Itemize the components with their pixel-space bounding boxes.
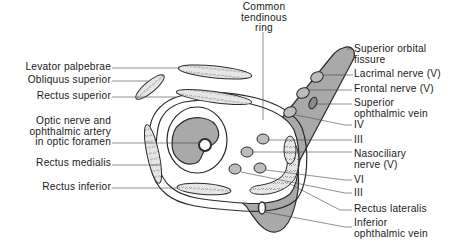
label-superior-orbital-fissure: Superior orbital fissure (354, 44, 426, 65)
levator-palpebrae-muscle (178, 62, 253, 82)
label-rectus-superior: Rectus superior (37, 91, 111, 102)
label-line: ring (237, 23, 291, 34)
label-nerve-iii-lower: III (354, 188, 363, 199)
label-line: VI (354, 175, 364, 186)
label-line: Obliquus superior (28, 75, 111, 86)
label-line: IV (354, 120, 364, 131)
label-line: Superior orbital (354, 44, 426, 55)
label-line: ophthalmic vein (354, 229, 428, 240)
label-nerve-iv: IV (354, 120, 364, 131)
label-line: III (354, 188, 363, 199)
label-nerve-iii-upper: III (354, 135, 363, 146)
label-line: Rectus lateralis (354, 204, 427, 215)
label-line: fissure (354, 55, 426, 66)
label-nasociliary-nerve: Nasociliary nerve (V) (354, 149, 406, 170)
label-inferior-ophthalmic-vein: Inferior ophthalmic vein (354, 218, 428, 239)
label-line: in optic foramen (29, 137, 111, 148)
label-superior-ophthalmic-vein: Superior ophthalmic vein (354, 98, 428, 119)
label-line: Common (237, 2, 291, 13)
inferior-ophthalmic-vein-shape (259, 202, 266, 214)
label-line: III (354, 135, 363, 146)
label-line: Inferior (354, 218, 428, 229)
label-optic-nerve: Optic nerve and ophthalmic artery in opt… (29, 116, 111, 148)
label-line: Rectus inferior (42, 182, 111, 193)
label-line: Superior (354, 98, 428, 109)
label-line: Rectus superior (37, 91, 111, 102)
nerve-vi-shape (254, 163, 266, 173)
label-line: Rectus medialis (36, 158, 111, 169)
label-rectus-lateralis: Rectus lateralis (354, 204, 427, 215)
label-line: nerve (V) (354, 160, 406, 171)
ophthalmic-artery-shape (199, 139, 211, 151)
label-nerve-vi: VI (354, 175, 364, 186)
nerve-iii-upper-shape (257, 134, 269, 144)
label-line: Nasociliary (354, 149, 406, 160)
label-line: Frontal nerve (V) (354, 84, 434, 95)
nerve-iii-lower-shape (229, 164, 241, 174)
label-obliquus-superior: Obliquus superior (28, 75, 111, 86)
nasociliary-nerve-shape (241, 147, 253, 157)
label-rectus-medialis: Rectus medialis (36, 158, 111, 169)
label-line: ophthalmic vein (354, 109, 428, 120)
label-line: Levator palpebrae (25, 62, 111, 73)
label-levator-palpebrae: Levator palpebrae (25, 62, 111, 73)
obliquus-superior-muscle (133, 71, 168, 103)
label-lacrimal-nerve: Lacrimal nerve (V) (354, 69, 441, 80)
label-rectus-inferior: Rectus inferior (42, 182, 111, 193)
label-frontal-nerve: Frontal nerve (V) (354, 84, 434, 95)
label-line: Lacrimal nerve (V) (354, 69, 441, 80)
label-line: Optic nerve and (29, 116, 111, 127)
label-common-tendinous-ring: Common tendinous ring (237, 2, 291, 34)
